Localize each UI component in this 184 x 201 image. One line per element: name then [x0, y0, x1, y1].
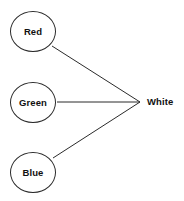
- node-white: White: [147, 95, 173, 109]
- edge-red-to-white: [52, 46, 140, 102]
- node-red-label: Red: [24, 27, 42, 37]
- node-green: Green: [10, 82, 56, 123]
- color-mixing-diagram: Red Green Blue White: [0, 0, 184, 201]
- edge-blue-to-white: [53, 102, 140, 158]
- node-white-label: White: [147, 97, 173, 107]
- node-red: Red: [10, 11, 56, 52]
- node-blue-label: Blue: [23, 168, 44, 178]
- node-blue: Blue: [10, 152, 56, 193]
- node-green-label: Green: [19, 98, 47, 108]
